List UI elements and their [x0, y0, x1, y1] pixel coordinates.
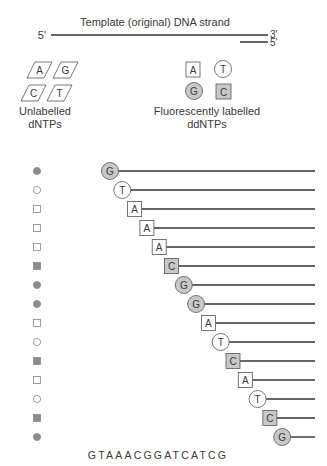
marker-open-square-icon: [34, 244, 41, 251]
svg-text:T: T: [220, 64, 226, 75]
unlabelled-label-line2: dNTPs: [28, 118, 62, 130]
fragment-base-label: A: [144, 223, 151, 234]
fragment-row: C: [34, 259, 316, 274]
template-5prime-label: 5': [38, 29, 46, 41]
marker-filled-square-icon: [34, 415, 41, 422]
fragment-base-label: G: [192, 299, 200, 310]
fragment-base-label: A: [205, 318, 212, 329]
svg-text:G: G: [190, 86, 198, 97]
dntp-g-icon: G: [53, 62, 78, 78]
svg-text:A: A: [36, 65, 43, 76]
dntp-a-icon: A: [27, 62, 52, 78]
marker-open-square-icon: [34, 377, 41, 384]
fragment-row: T: [33, 182, 315, 199]
marker-open-square-icon: [34, 225, 41, 232]
fragment-base-label: T: [255, 394, 261, 405]
fragment-ladder: GTAAACGGATCATCG: [33, 163, 315, 446]
fragment-row: G: [33, 296, 315, 313]
svg-text:T: T: [56, 88, 62, 99]
marker-filled-circle-icon: [33, 433, 40, 440]
labelled-ddntps-group: A T G C Fluorescently labelled ddNTPs: [154, 61, 260, 131]
fragment-row: A: [34, 240, 316, 255]
marker-filled-square-icon: [34, 358, 41, 365]
marker-filled-circle-icon: [33, 167, 40, 174]
fragment-base-label: A: [242, 375, 249, 386]
ddntp-g-icon: G: [186, 83, 203, 100]
marker-filled-square-icon: [34, 263, 41, 270]
fragment-row: T: [33, 391, 315, 408]
marker-open-circle-icon: [33, 338, 40, 345]
fragment-row: G: [33, 277, 315, 294]
fragment-base-label: G: [106, 166, 114, 177]
fragment-row: C: [34, 354, 316, 369]
ddntp-a-icon: A: [186, 62, 200, 77]
fragment-base-label: T: [119, 185, 125, 196]
sanger-sequencing-diagram: Template (original) DNA strand 5' 3' 5' …: [0, 0, 327, 466]
marker-open-circle-icon: [33, 186, 40, 193]
primer-5prime-label: 5': [270, 37, 278, 48]
dntp-c-icon: C: [21, 85, 46, 101]
labelled-label-line1: Fluorescently labelled: [154, 105, 260, 117]
labelled-label-line2: ddNTPs: [187, 118, 227, 130]
marker-open-square-icon: [34, 206, 41, 213]
fragment-base-label: A: [131, 204, 138, 215]
svg-text:A: A: [190, 65, 197, 76]
fragment-base-label: C: [168, 261, 175, 272]
fragment-base-label: C: [229, 356, 236, 367]
svg-text:C: C: [220, 87, 227, 98]
fragment-row: A: [34, 221, 316, 236]
fragment-base-label: G: [180, 280, 188, 291]
fragment-row: C: [34, 411, 316, 426]
template-title: Template (original) DNA strand: [80, 16, 230, 28]
fragment-row: A: [34, 316, 316, 331]
fragment-base-label: G: [278, 432, 286, 443]
fragment-base-label: C: [266, 413, 273, 424]
svg-text:C: C: [30, 88, 37, 99]
ddntp-c-icon: C: [216, 84, 231, 99]
fragment-row: G: [33, 163, 315, 180]
fragment-row: A: [34, 202, 316, 217]
ddntp-t-icon: T: [215, 61, 232, 78]
marker-filled-circle-icon: [33, 281, 40, 288]
marker-open-circle-icon: [33, 395, 40, 402]
fragment-row: T: [33, 334, 315, 351]
fragment-base-label: A: [156, 242, 163, 253]
marker-filled-circle-icon: [33, 300, 40, 307]
unlabelled-label-line1: Unlabelled: [19, 105, 71, 117]
svg-text:G: G: [62, 65, 70, 76]
unlabelled-dntps-group: A G C T Unlabelled dNTPs: [19, 62, 78, 130]
fragment-row: G: [33, 429, 315, 446]
dntp-t-icon: T: [47, 85, 72, 101]
fragment-base-label: T: [218, 337, 224, 348]
sequence-readout: GTAAACGGATCATCG: [88, 449, 228, 461]
fragment-row: A: [34, 373, 316, 388]
marker-open-square-icon: [34, 320, 41, 327]
